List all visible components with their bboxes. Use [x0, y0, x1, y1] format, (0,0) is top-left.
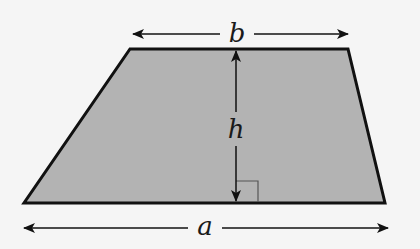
height-label: h — [228, 114, 245, 144]
trapezoid-diagram: h b a — [0, 0, 420, 249]
bottom-base-label: a — [197, 211, 213, 241]
top-base-label: b — [229, 18, 246, 48]
